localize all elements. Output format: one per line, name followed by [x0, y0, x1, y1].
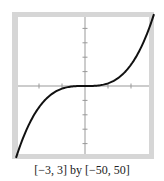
function-graph: [0, 0, 164, 181]
window-caption: [−3, 3] by [−50, 50]: [0, 163, 164, 178]
